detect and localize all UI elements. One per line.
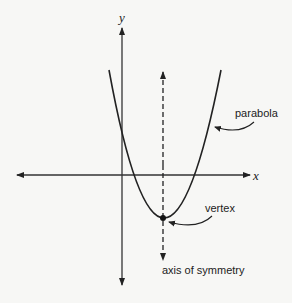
axis-of-symmetry-label: axis of symmetry bbox=[162, 264, 245, 276]
vertex-point bbox=[160, 215, 166, 221]
parabola-diagram: y x parabola vertex axis of symmetry bbox=[0, 0, 292, 303]
diagram-canvas: y x parabola vertex axis of symmetry bbox=[0, 0, 292, 303]
vertex-label: vertex bbox=[205, 202, 235, 214]
parabola-curve bbox=[109, 70, 221, 218]
x-axis-label: x bbox=[252, 168, 259, 183]
y-axis-label: y bbox=[117, 10, 125, 25]
parabola-pointer-arrow bbox=[215, 122, 254, 130]
vertex-pointer-arrow bbox=[169, 216, 212, 225]
parabola-label: parabola bbox=[235, 107, 279, 119]
